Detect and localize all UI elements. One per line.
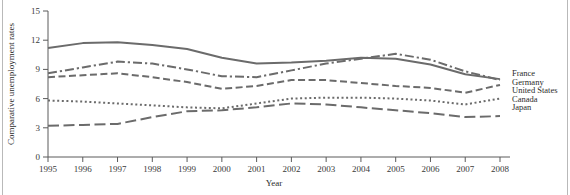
series-line-japan <box>48 103 500 125</box>
y-axis-title: Comparative unemployment rates <box>6 23 16 145</box>
series-inline-labels: FranceGermanyUnited StatesCanadaJapan <box>512 68 558 112</box>
x-axis-title: Year <box>266 178 283 188</box>
series-label-japan: Japan <box>512 102 532 112</box>
x-tick-label: 1996 <box>74 164 93 174</box>
series-line-germany <box>48 54 500 80</box>
y-tick-label: 6 <box>36 94 41 104</box>
x-tick-label: 2006 <box>421 164 440 174</box>
x-tick-label: 2007 <box>456 164 475 174</box>
figure-page: 03691215 1995199619971998199920002001200… <box>0 0 570 195</box>
chart-svg: 03691215 1995199619971998199920002001200… <box>0 0 570 195</box>
y-tick-label: 0 <box>36 152 41 162</box>
x-tick-label: 1997 <box>109 164 128 174</box>
y-tick-label: 3 <box>36 123 41 133</box>
x-tick-label: 2000 <box>213 164 232 174</box>
series-line-canada <box>48 98 500 109</box>
y-axis-ticks: 03691215 <box>31 6 48 162</box>
series-line-united-states <box>48 73 500 92</box>
line-chart-figure: 03691215 1995199619971998199920002001200… <box>0 0 570 195</box>
x-tick-label: 1995 <box>39 164 58 174</box>
y-tick-label: 12 <box>31 35 40 45</box>
x-tick-label: 1999 <box>178 164 197 174</box>
x-tick-label: 2002 <box>282 164 300 174</box>
y-tick-label: 15 <box>31 6 41 16</box>
x-tick-label: 2001 <box>248 164 266 174</box>
y-tick-label: 9 <box>36 64 41 74</box>
x-tick-label: 1998 <box>143 164 162 174</box>
series-lines <box>48 42 500 126</box>
x-tick-label: 2004 <box>352 164 371 174</box>
x-axis-ticks: 1995199619971998199920002001200220032004… <box>39 157 510 174</box>
x-tick-label: 2005 <box>387 164 406 174</box>
x-tick-label: 2003 <box>317 164 336 174</box>
x-tick-label: 2008 <box>491 164 510 174</box>
